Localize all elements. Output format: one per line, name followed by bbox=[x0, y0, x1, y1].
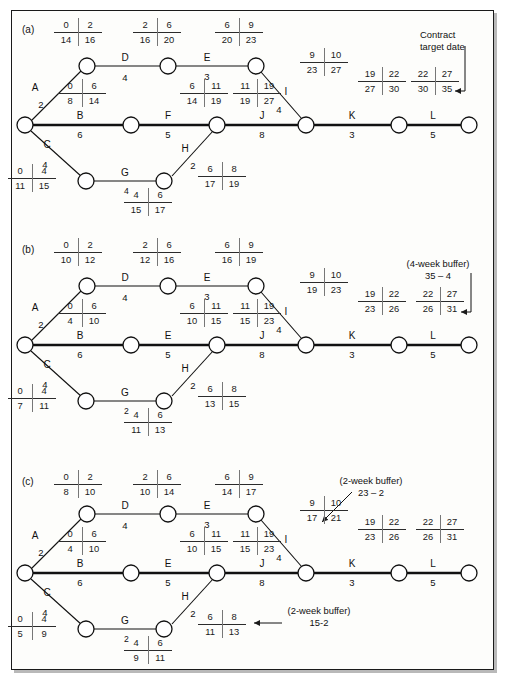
panel-c-edge-label-K: K bbox=[345, 558, 359, 569]
lf: 26 bbox=[382, 532, 406, 542]
panel-b-network bbox=[17, 273, 477, 409]
panel-b-edge-label-D: D bbox=[118, 272, 132, 283]
box-divider bbox=[382, 67, 383, 95]
es: 0 bbox=[54, 472, 78, 482]
panel-c-edge-label-E: E bbox=[200, 500, 214, 511]
lf: 15 bbox=[32, 181, 56, 191]
ls: 27 bbox=[358, 84, 382, 94]
panel-a-edge-label-K: K bbox=[345, 110, 359, 121]
es: 9 bbox=[300, 270, 324, 280]
box-divider bbox=[435, 67, 436, 95]
panel-a-edge-dur-F: 5 bbox=[161, 129, 175, 140]
ls: 4 bbox=[58, 316, 82, 326]
ef: 19 bbox=[257, 301, 281, 311]
es: 19 bbox=[358, 517, 382, 527]
box-divider bbox=[82, 299, 83, 327]
ls: 11 bbox=[8, 181, 32, 191]
panel-a-box-J: 1119 1927 bbox=[233, 80, 281, 107]
ls: 14 bbox=[54, 35, 78, 45]
ls: 14 bbox=[180, 96, 204, 106]
ls: 19 bbox=[300, 285, 324, 295]
panel-b-box-K: 1922 2326 bbox=[358, 288, 406, 315]
box-divider bbox=[222, 162, 223, 190]
panel-a-box-H: 68 1719 bbox=[198, 163, 246, 190]
panel-b-edge-dur-G: 2 bbox=[124, 406, 129, 416]
panel-c-edge-label-C: C bbox=[40, 587, 54, 598]
ls: 14 bbox=[215, 487, 239, 497]
es: 6 bbox=[198, 164, 222, 174]
box-divider bbox=[78, 470, 79, 498]
panel-b-box-B: 06 410 bbox=[58, 300, 106, 327]
ls: 20 bbox=[215, 35, 239, 45]
panel-c-edge-dur-K: 3 bbox=[345, 577, 359, 588]
lf: 23 bbox=[324, 285, 348, 295]
ef: 27 bbox=[440, 517, 464, 527]
lf: 9 bbox=[32, 629, 56, 639]
ef: 22 bbox=[382, 69, 406, 79]
panel-b-edge-label-G: G bbox=[118, 387, 132, 398]
ef: 9 bbox=[239, 240, 263, 250]
ef: 6 bbox=[148, 410, 172, 420]
panel-b-box-H: 68 1315 bbox=[198, 383, 246, 410]
ls: 10 bbox=[180, 316, 204, 326]
panel-c-edge-label-A: A bbox=[28, 530, 42, 541]
ef: 9 bbox=[239, 472, 263, 482]
panel-c-annotation-top-line1: (2-week buffer) bbox=[326, 475, 416, 487]
panel-c-box-G: 46 911 bbox=[124, 637, 172, 664]
box-divider bbox=[239, 18, 240, 46]
box-divider bbox=[239, 470, 240, 498]
lf: 19 bbox=[239, 255, 263, 265]
ls: 8 bbox=[54, 487, 78, 497]
ef: 6 bbox=[157, 472, 181, 482]
panel-b-edge-label-L: L bbox=[426, 330, 440, 341]
panel-b-edge-dur-H: 2 bbox=[186, 380, 200, 391]
ef: 10 bbox=[324, 50, 348, 60]
ls: 11 bbox=[198, 627, 222, 637]
panel-c-edge-label-G: G bbox=[118, 615, 132, 626]
es: 0 bbox=[8, 614, 32, 624]
panel-b-edge-label-B: B bbox=[73, 330, 87, 341]
panel-b-edge-dur-C: 4 bbox=[38, 379, 52, 390]
es: 0 bbox=[58, 81, 82, 91]
ls: 9 bbox=[124, 653, 148, 663]
ef: 6 bbox=[157, 240, 181, 250]
panel-a-box-B: 06 814 bbox=[58, 80, 106, 107]
panel-b-box-E: 26 1216 bbox=[133, 239, 181, 266]
panel-b-edge-label-J: J bbox=[255, 330, 269, 341]
es: 6 bbox=[215, 472, 239, 482]
panel-c-edge-label-D: D bbox=[118, 500, 132, 511]
panel-c-annotation-top-line2: 23 – 2 bbox=[326, 487, 416, 499]
box-divider bbox=[324, 268, 325, 296]
ls: 11 bbox=[124, 425, 148, 435]
box-divider bbox=[257, 79, 258, 107]
box-divider bbox=[204, 299, 205, 327]
panel-c-box-K: 1922 2326 bbox=[358, 516, 406, 543]
es: 22 bbox=[416, 289, 440, 299]
es: 6 bbox=[215, 240, 239, 250]
panel-c-annotation-bottom-line2: 15-2 bbox=[274, 617, 364, 629]
ef: 10 bbox=[324, 270, 348, 280]
ls: 15 bbox=[124, 205, 148, 215]
ls: 17 bbox=[198, 179, 222, 189]
ls: 10 bbox=[180, 544, 204, 554]
panel-a-label: (a) bbox=[22, 24, 34, 35]
lf: 10 bbox=[82, 544, 106, 554]
ef: 22 bbox=[382, 517, 406, 527]
panel-b-edge-dur-F: 5 bbox=[161, 349, 175, 360]
panel-a-edge-label-E: E bbox=[200, 52, 214, 63]
panel-c-box-B: 06 410 bbox=[58, 528, 106, 555]
ef: 6 bbox=[82, 81, 106, 91]
panel-c-box-I-top: 69 1417 bbox=[215, 471, 263, 498]
panel-c-edge-label-H: H bbox=[178, 591, 192, 602]
panel-a-edge-label-C: C bbox=[40, 139, 54, 150]
panel-b-edge-label-E: E bbox=[200, 272, 214, 283]
es: 0 bbox=[58, 301, 82, 311]
panel-b-annotation-line1: (4-week buffer) bbox=[396, 258, 480, 270]
ef: 27 bbox=[440, 289, 464, 299]
es: 2 bbox=[133, 472, 157, 482]
ef: 11 bbox=[204, 81, 228, 91]
ef: 2 bbox=[78, 240, 102, 250]
box-divider bbox=[78, 238, 79, 266]
lf: 27 bbox=[324, 65, 348, 75]
ls: 23 bbox=[358, 304, 382, 314]
